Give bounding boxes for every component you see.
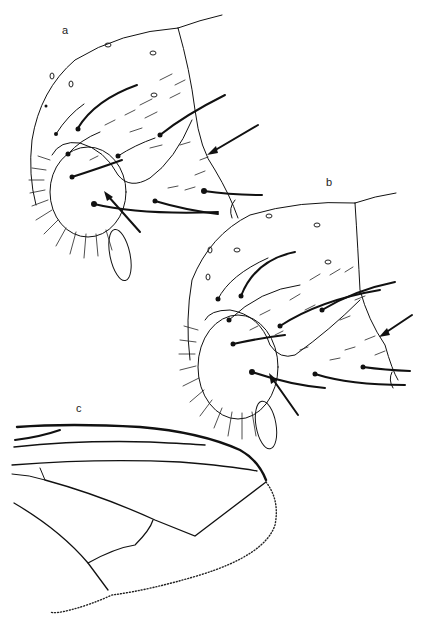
- panel-c-wing: [12, 425, 276, 613]
- figure: a b c: [0, 0, 426, 626]
- figure-drawing: [0, 0, 426, 626]
- panel-b-thorax: [179, 193, 412, 450]
- panel-a-thorax: [29, 15, 262, 283]
